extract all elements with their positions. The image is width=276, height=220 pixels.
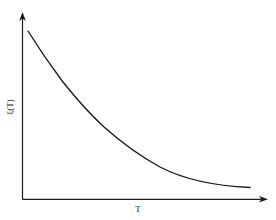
figure-container: ξ(T) T	[0, 0, 276, 220]
x-axis-label-text: T	[135, 204, 141, 214]
data-curve	[28, 31, 250, 188]
y-axis-label-text: ξ(T)	[5, 99, 15, 115]
plot-canvas	[0, 0, 276, 220]
x-axis-label: T	[125, 202, 151, 216]
y-axis-label: ξ(T)	[2, 86, 18, 128]
